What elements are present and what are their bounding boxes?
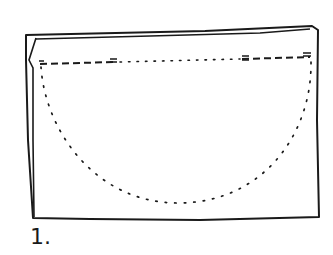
sewing-diagram — [0, 0, 333, 255]
fabric-outline — [26, 26, 319, 220]
step-number-label: 1. — [30, 226, 51, 248]
seam-line-left — [40, 62, 116, 64]
seam-marker-left — [39, 59, 117, 62]
fold-left-edge — [29, 38, 36, 217]
seam-line-right — [242, 57, 310, 59]
seam-gap-dotted — [120, 59, 240, 62]
cut-line-semicircle — [41, 62, 311, 203]
